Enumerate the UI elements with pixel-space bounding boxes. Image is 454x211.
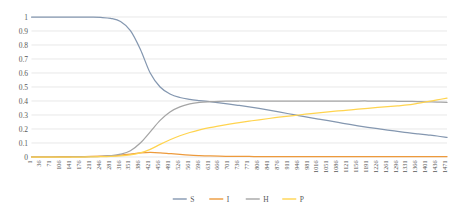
x-tick-label: 561 (184, 161, 191, 170)
x-tick-label: 211 (85, 161, 92, 170)
x-tick-label: 946 (293, 161, 300, 170)
x-tick-label: 841 (263, 161, 270, 170)
x-tick-label: 246 (95, 161, 102, 170)
x-axis-tick-labels: 1367110614117621124628131635138642145649… (26, 161, 449, 173)
x-tick-label: 316 (115, 161, 122, 170)
x-tick-label: 1121 (342, 161, 349, 173)
y-tick-label: 1 (24, 13, 28, 22)
y-tick-label: 0.4 (19, 97, 29, 106)
legend-label-p: P (300, 195, 304, 204)
x-tick-label: 1086 (332, 161, 339, 173)
x-tick-label: 281 (105, 161, 112, 170)
x-tick-label: 1331 (401, 161, 408, 173)
legend-label-s: S (190, 195, 194, 204)
x-tick-label: 736 (233, 161, 240, 170)
x-tick-label: 771 (243, 161, 250, 170)
x-tick-label: 981 (303, 161, 310, 170)
y-tick-label: 0.6 (19, 69, 29, 78)
x-tick-label: 456 (154, 161, 161, 170)
y-tick-label: 0.2 (19, 125, 29, 134)
x-tick-label: 1401 (421, 161, 428, 173)
x-tick-label: 1471 (441, 161, 448, 173)
x-tick-label: 386 (134, 161, 141, 170)
chart-legend: SIHP (173, 195, 304, 204)
x-tick-label: 1226 (372, 161, 379, 173)
x-tick-label: 71 (45, 161, 52, 167)
x-tick-label: 1191 (362, 161, 369, 173)
y-tick-label: 0 (24, 153, 28, 162)
x-tick-label: 701 (223, 161, 230, 170)
chart-canvas: 10.90.80.70.60.50.40.30.20.10 1367110614… (0, 0, 454, 211)
x-tick-label: 1261 (382, 161, 389, 173)
legend-label-i: I (227, 195, 230, 204)
x-tick-label: 1296 (392, 161, 399, 173)
y-tick-label: 0.7 (19, 55, 29, 64)
line-chart: 10.90.80.70.60.50.40.30.20.10 1367110614… (0, 0, 454, 211)
x-tick-label: 1051 (322, 161, 329, 173)
y-tick-label: 0.5 (19, 83, 29, 92)
x-tick-label: 876 (273, 161, 280, 170)
x-tick-label: 1 (26, 161, 33, 164)
x-tick-label: 1016 (312, 161, 319, 173)
y-axis-tick-labels: 10.90.80.70.60.50.40.30.20.10 (19, 13, 29, 162)
y-tick-label: 0.3 (19, 111, 29, 120)
x-tick-label: 141 (65, 161, 72, 170)
gridlines (32, 17, 448, 157)
x-tick-label: 1366 (411, 161, 418, 173)
x-tick-label: 36 (35, 161, 42, 167)
y-tick-label: 0.9 (19, 27, 29, 36)
series-line-s (32, 17, 448, 137)
y-tick-label: 0.1 (19, 139, 29, 148)
y-tick-label: 0.8 (19, 41, 29, 50)
x-tick-label: 1436 (431, 161, 438, 173)
x-tick-label: 666 (213, 161, 220, 170)
x-tick-label: 911 (283, 161, 290, 170)
x-tick-label: 526 (174, 161, 181, 170)
x-tick-label: 106 (55, 161, 62, 170)
series-line-p (32, 98, 448, 157)
x-tick-label: 1156 (352, 161, 359, 173)
x-tick-label: 491 (164, 161, 171, 170)
x-tick-label: 421 (144, 161, 151, 170)
x-tick-label: 351 (124, 161, 131, 170)
x-tick-label: 806 (253, 161, 260, 170)
legend-label-h: H (263, 195, 269, 204)
x-tick-label: 176 (75, 161, 82, 170)
x-tick-label: 631 (204, 161, 211, 170)
x-tick-label: 596 (194, 161, 201, 170)
